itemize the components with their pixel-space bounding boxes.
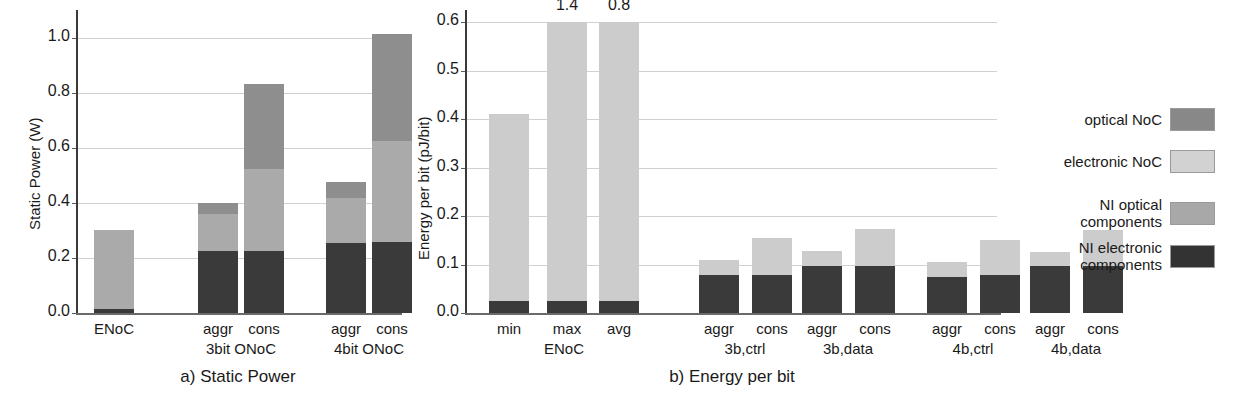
legend-item-label: NI electronic components	[1079, 239, 1162, 273]
legend-swatch	[1170, 108, 1215, 131]
bar-value-label: 0.8	[589, 0, 649, 14]
y-axis-tick-label: 0.0	[22, 302, 70, 320]
x-axis-tick-label: ENoC	[69, 320, 159, 337]
bar[interactable]	[326, 182, 366, 313]
bar-segment	[547, 301, 587, 313]
y-axis-tick-label: 0.2	[22, 247, 70, 265]
y-axis-line	[76, 10, 78, 315]
bar-value-label: 1.4	[537, 0, 597, 14]
bar-segment	[547, 22, 587, 301]
x-axis-group-label: 3bit ONoC	[171, 340, 311, 357]
legend-item-label: optical NoC	[1084, 111, 1162, 128]
bar-segment	[752, 238, 792, 275]
bar-segment	[802, 251, 842, 266]
bar[interactable]	[855, 229, 895, 313]
bar-segment	[244, 84, 284, 169]
y-axis-tick-label: 0.6	[22, 137, 70, 155]
x-axis-line	[76, 313, 402, 315]
bar-segment	[927, 262, 967, 277]
bar-segment	[244, 169, 284, 251]
plot-area-static-power	[78, 22, 398, 313]
bar[interactable]	[198, 203, 238, 313]
bar-segment	[489, 114, 529, 301]
y-axis-tick-label: 1.0	[22, 27, 70, 45]
bar-segment	[326, 182, 366, 198]
chart-panel-static-power: Static Power (W) 0.00.20.40.60.81.0ENoCa…	[0, 0, 420, 403]
legend-item[interactable]: NI electronic components	[1000, 239, 1215, 273]
legend-item[interactable]: optical NoC	[1000, 108, 1215, 131]
legend-item[interactable]: electronic NoC	[1000, 150, 1215, 173]
chart-legend: optical NoCelectronic NoCNI optical comp…	[1000, 108, 1239, 288]
x-axis-tick-label: avg	[574, 320, 664, 337]
bar-segment	[927, 277, 967, 313]
y-axis-tick-label: 0.3	[411, 157, 459, 175]
bar-segment	[599, 301, 639, 313]
gridline	[78, 38, 398, 39]
y-axis-tick-label: 0.1	[411, 254, 459, 272]
bar-segment	[699, 275, 739, 313]
bar-segment	[752, 275, 792, 313]
chart-panel-energy-per-bit: Energy per bit (pJ/bit) 0.00.10.20.30.40…	[405, 0, 1000, 403]
bar-segment	[198, 214, 238, 251]
x-axis-group-label: 3b,data	[778, 340, 918, 357]
x-axis-group-label: 4b,data	[1006, 340, 1146, 357]
legend-swatch	[1170, 150, 1215, 173]
bar[interactable]	[547, 22, 587, 313]
x-axis-tick-label: cons	[1058, 320, 1148, 337]
legend-item-label: NI optical components	[1080, 196, 1162, 230]
y-axis-tick-label: 0.0	[411, 302, 459, 320]
bar[interactable]	[802, 251, 842, 313]
bar[interactable]	[927, 262, 967, 313]
bar[interactable]	[489, 114, 529, 313]
bar-segment	[802, 266, 842, 313]
legend-item-label: electronic NoC	[1064, 153, 1162, 170]
y-axis-tick-label: 0.4	[22, 192, 70, 210]
gridline	[78, 93, 398, 94]
bar-segment	[699, 260, 739, 275]
bar-segment	[326, 198, 366, 243]
plot-area-energy-per-bit	[467, 22, 997, 313]
legend-item[interactable]: NI optical components	[1000, 196, 1215, 230]
bar-segment	[198, 203, 238, 215]
bar[interactable]	[599, 22, 639, 313]
bar-segment	[198, 251, 238, 313]
legend-swatch	[1170, 202, 1215, 225]
y-axis-tick-label: 0.6	[411, 11, 459, 29]
y-axis-label-static-power: Static Power (W)	[26, 117, 43, 230]
bar-segment	[94, 309, 134, 313]
bar-segment	[489, 301, 529, 313]
bar-segment	[244, 251, 284, 313]
legend-swatch	[1170, 245, 1215, 268]
bar-segment	[599, 22, 639, 301]
x-axis-group-label: ENoC	[494, 340, 634, 357]
y-axis-tick-label: 0.8	[22, 82, 70, 100]
y-axis-label-energy-per-bit: Energy per bit (pJ/bit)	[415, 117, 432, 260]
bar[interactable]	[94, 230, 134, 313]
x-axis-tick-label: cons	[219, 320, 309, 337]
bar-segment	[855, 266, 895, 313]
y-axis-line	[465, 10, 467, 315]
chart-caption: b) Energy per bit	[572, 367, 892, 387]
y-axis-tick-label: 0.5	[411, 60, 459, 78]
x-axis-line	[465, 313, 1001, 315]
bar[interactable]	[244, 84, 284, 313]
chart-caption: a) Static Power	[78, 367, 398, 387]
bar[interactable]	[699, 260, 739, 313]
y-axis-tick-label: 0.2	[411, 205, 459, 223]
bar-segment	[855, 229, 895, 266]
bar[interactable]	[752, 238, 792, 313]
y-axis-tick-label: 0.4	[411, 108, 459, 126]
gridline	[78, 148, 398, 149]
figure-static-power-and-energy-per-bit: Static Power (W) 0.00.20.40.60.81.0ENoCa…	[0, 0, 1239, 403]
bar-segment	[326, 243, 366, 313]
bar-segment	[94, 230, 134, 309]
